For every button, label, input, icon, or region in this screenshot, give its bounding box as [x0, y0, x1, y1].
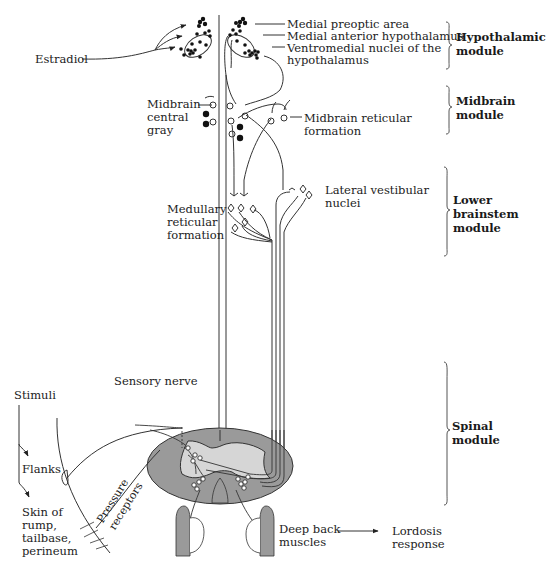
label-midbrain-reticular-2: formation [304, 125, 361, 138]
label-medullary-reticular-3: formation [167, 229, 224, 242]
module-lower-brainstem-2: brainstem [453, 207, 519, 221]
label-lordosis-2: response [392, 538, 445, 551]
vestibulospinal-tract-1 [276, 192, 290, 470]
label-stimuli: Stimuli [14, 389, 56, 402]
label-midbrain-central-gray-3: gray [147, 124, 173, 137]
vestibulospinal-tract-3 [284, 198, 306, 470]
module-lower-brainstem-1: Lower [453, 193, 492, 207]
hypothalamus-projection-b [245, 56, 283, 105]
module-spinal-2: module [452, 433, 500, 447]
label-flanks: Flanks [22, 463, 61, 476]
stimuli-arrows [19, 405, 29, 497]
module-lower-brainstem-3: module [453, 221, 501, 235]
deep-back-muscles [176, 506, 274, 556]
module-midbrain-2: module [456, 108, 504, 122]
module-braces [444, 22, 452, 505]
module-hypothalamic-2: module [456, 44, 504, 58]
estradiol-label: Estradiol [35, 53, 88, 66]
module-midbrain-1: Midbrain [456, 94, 515, 108]
hypothalamus-projection-a [225, 36, 228, 430]
label-skin-4: perineum [22, 545, 78, 558]
module-hypothalamic-1: Hypothalamic [456, 30, 546, 44]
label-sensory-nerve: Sensory nerve [114, 375, 198, 388]
label-ventromedial-nuclei-line2: hypothalamus [287, 54, 369, 67]
estradiol-arrow [82, 50, 155, 59]
midbrain-filled-neurons [203, 111, 243, 141]
label-lateral-vestibular-2: nuclei [325, 197, 360, 210]
vestibulospinal-tract-2 [280, 196, 298, 470]
module-spinal-1: Spinal [452, 419, 493, 433]
midbrain-open-neurons [210, 102, 287, 137]
label-deep-back-2: muscles [279, 536, 326, 549]
midbrain-crossing-fiber-2 [244, 119, 271, 194]
